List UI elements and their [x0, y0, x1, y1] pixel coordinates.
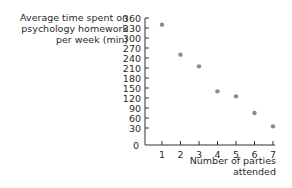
y-tick-label: 300 — [123, 33, 141, 44]
data-point — [197, 64, 201, 68]
y-axis: 0306090120150180210240270300330360 — [123, 13, 149, 152]
x-tick-label: 2 — [177, 149, 183, 160]
data-point — [215, 89, 219, 93]
data-point — [234, 94, 238, 98]
y-tick-label: 180 — [123, 73, 141, 84]
y-tick-label: 0 — [133, 140, 139, 151]
y-tick-label: 120 — [123, 93, 141, 104]
x-axis-title-line-2: attended — [190, 166, 276, 177]
data-point — [271, 124, 275, 128]
x-axis-title-line-1: Number of parties — [190, 155, 276, 166]
data-points — [160, 22, 275, 128]
y-tick-label: 330 — [123, 23, 141, 34]
data-point — [160, 22, 164, 26]
y-tick-label: 360 — [123, 13, 141, 24]
y-tick-label: 90 — [129, 103, 141, 114]
y-tick-label: 150 — [123, 83, 141, 94]
y-tick-label: 60 — [129, 113, 141, 124]
y-tick-label: 270 — [123, 43, 141, 54]
data-point — [178, 52, 182, 56]
y-tick-label: 30 — [129, 123, 141, 134]
y-tick-label: 240 — [123, 53, 141, 64]
x-axis-title: Number of parties attended — [190, 155, 276, 177]
data-point — [252, 111, 256, 115]
x-tick-label: 1 — [159, 149, 165, 160]
y-tick-label: 210 — [123, 63, 141, 74]
